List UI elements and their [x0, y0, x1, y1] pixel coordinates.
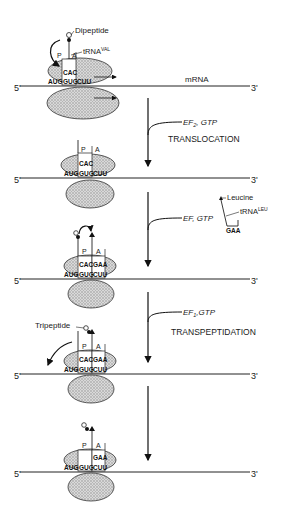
codon-cuu: CUU: [93, 464, 107, 471]
peptide-transfer-arrow: [79, 226, 91, 234]
five-prime-label: 5': [14, 83, 21, 93]
three-prime-label: 3': [251, 371, 258, 381]
five-prime-label: 5': [14, 469, 21, 479]
three-prime-label: 3': [251, 83, 258, 93]
a-site-label: A: [95, 146, 100, 153]
leader-line: [76, 327, 84, 328]
leader-line: [71, 31, 74, 35]
ribosome-large-subunit: [66, 180, 114, 208]
codon-cuu: CUU: [93, 170, 107, 177]
codon-aug: AUG: [64, 170, 78, 177]
factor-ef1-gtp: EF1,GTP: [183, 308, 216, 318]
anticodon-cac: CAC: [63, 69, 77, 76]
peptide-bead: [67, 38, 71, 42]
anticodon-gaa: GAA: [93, 356, 108, 363]
step-aminoacyl-binding: EF, GTP Leucine tRNALEU GAA: [148, 192, 268, 266]
peptide-bead: [89, 426, 95, 431]
peptide-bead: [84, 326, 89, 331]
tripeptide-label: Tripeptide: [35, 321, 71, 330]
codon-aug: AUG: [64, 366, 78, 373]
five-prime-label: 5': [14, 175, 21, 185]
codon-gug: GUG: [63, 78, 78, 85]
p-site-label: P: [82, 248, 87, 255]
trna-leu-label: tRNALEU: [240, 206, 268, 216]
codon-cuu: CUU: [93, 271, 107, 278]
p-site-label: P: [82, 442, 87, 449]
step-transpeptidation: EF1,GTP TRANSPEPTIDATION: [148, 292, 256, 362]
peptide-bead: [82, 423, 87, 428]
p-site-label: P: [82, 343, 87, 350]
leader-line: [226, 212, 239, 216]
anticodon-cac: CAC: [79, 356, 93, 363]
factor-ef2-gtp: EF2, GTP: [183, 118, 218, 128]
peptide-bead: [76, 235, 80, 239]
peptide-bead: [74, 231, 79, 236]
three-prime-label: 3': [251, 175, 258, 185]
p-site-label: P: [81, 146, 86, 153]
stage-3: 5' 3' P A CAC GAA AUG GUG CUU: [14, 226, 258, 308]
p-site-label: P: [57, 52, 62, 59]
ribosome-large-subunit: [68, 473, 114, 501]
three-prime-label: 3': [251, 469, 258, 479]
trna-val-label: tRNAVAL: [83, 46, 110, 56]
a-site-label: A: [96, 343, 101, 350]
a-site-label: A: [72, 52, 77, 59]
codon-gug: GUG: [79, 271, 94, 278]
codon-aug: AUG: [64, 464, 78, 471]
anticodon-gaa: GAA: [93, 454, 108, 461]
codon-aug: AUG: [64, 271, 78, 278]
codon-aug: AUG: [48, 78, 62, 85]
a-site-label: A: [96, 442, 101, 449]
stage-5: 5' 3' P A GAA AUG GUG CUU: [14, 423, 258, 501]
dipeptide-label: Dipeptide: [75, 26, 109, 35]
ribosome-large-subunit: [68, 375, 114, 403]
codon-gug: GUG: [79, 366, 94, 373]
leucine-marker: [89, 232, 95, 237]
a-site-label: A: [96, 248, 101, 255]
anticodon-gaa: GAA: [93, 261, 108, 268]
stage-1: 5' 3' mRNA Dipeptide tRNAVAL P A CAC AUG…: [14, 26, 258, 119]
step-translocation: EF2, GTP TRANSLOCATION: [148, 98, 240, 166]
three-prime-label: 3': [251, 276, 258, 286]
codon-gug: GUG: [79, 464, 94, 471]
anticodon-cac: CAC: [79, 160, 93, 167]
factor-ef-gtp: EF, GTP: [183, 214, 214, 223]
mrna-label: mRNA: [185, 75, 209, 84]
translation-elongation-diagram: 5' 3' mRNA Dipeptide tRNAVAL P A CAC AUG…: [0, 0, 288, 518]
five-prime-label: 5': [14, 371, 21, 381]
step-name-translocation: TRANSLOCATION: [168, 134, 240, 144]
factor-branch: [148, 218, 182, 230]
codon-cuu: CUU: [93, 366, 107, 373]
peptide-bead: [85, 427, 89, 431]
step-name-transpeptidation: TRANSPEPTIDATION: [171, 327, 256, 337]
factor-branch: [148, 312, 182, 322]
anticodon-gaa: GAA: [226, 227, 241, 234]
ribosome-large-subunit: [68, 280, 114, 308]
ribosome-large-subunit: [47, 87, 119, 119]
leucine-label: Leucine: [227, 193, 253, 202]
incoming-trna-leu: Leucine tRNALEU GAA: [219, 193, 268, 234]
codon-cuu: CUU: [77, 78, 91, 85]
peptide-bead: [67, 33, 72, 38]
codon-gug: GUG: [79, 170, 94, 177]
five-prime-label: 5': [14, 276, 21, 286]
anticodon-cac: CAC: [79, 261, 93, 268]
